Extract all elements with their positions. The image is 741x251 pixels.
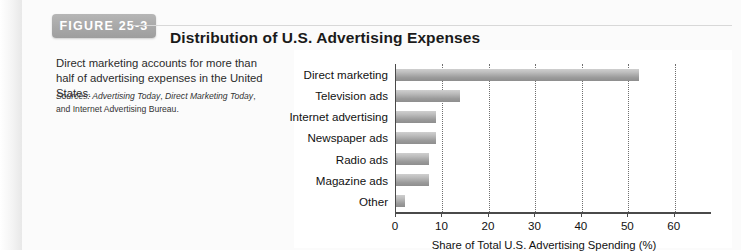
bar-row: Television ads: [396, 85, 712, 106]
bar: [396, 90, 460, 102]
x-tick-0: [395, 212, 396, 217]
x-tick-60: [674, 212, 675, 217]
bar: [396, 153, 429, 165]
bar: [396, 69, 639, 81]
category-label: Internet advertising: [223, 110, 396, 123]
bar: [396, 132, 436, 144]
x-tick-label: 60: [654, 219, 694, 232]
plot-area: Direct marketingTelevision adsInternet a…: [395, 64, 712, 212]
x-tick-label: 10: [421, 219, 461, 232]
x-tick-10: [441, 212, 442, 217]
bar: [396, 111, 436, 123]
bar: [396, 174, 429, 186]
x-tick-label: 20: [468, 219, 508, 232]
x-tick-label: 40: [561, 219, 601, 232]
x-tick-50: [627, 212, 628, 217]
chart-plot-panel: Direct marketingTelevision adsInternet a…: [294, 50, 732, 248]
x-tick-label: 0: [375, 219, 415, 232]
page-left-edge: [0, 0, 22, 250]
bar-row: Magazine ads: [396, 170, 712, 191]
bar-row: Radio ads: [396, 149, 712, 170]
bar-row: Direct marketing: [396, 64, 712, 85]
x-tick-40: [581, 212, 582, 217]
category-label: Other: [223, 195, 396, 208]
source-title-3: Internet Advertising Bureau.: [73, 104, 179, 114]
chart-title: Distribution of U.S. Advertising Expense…: [170, 29, 590, 47]
bar-row: Internet advertising: [396, 106, 712, 127]
figure-card: FIGURE 25-3 Distribution of U.S. Adverti…: [22, 0, 741, 250]
source-title-1: Advertising Today: [92, 91, 160, 101]
category-label: Television ads: [223, 89, 396, 102]
x-tick-20: [488, 212, 489, 217]
x-tick-label: 50: [607, 219, 647, 232]
title-divider: [132, 25, 732, 26]
bar-row: Other: [396, 191, 712, 212]
figure-number-label: FIGURE 25-3: [52, 14, 156, 38]
category-label: Magazine ads: [223, 174, 396, 187]
bar: [396, 195, 405, 207]
x-tick-30: [534, 212, 535, 217]
sources-label: Sources:: [56, 91, 90, 101]
bar-row: Newspaper ads: [396, 127, 712, 148]
figure-number-tab: FIGURE 25-3: [52, 14, 156, 38]
category-label: Newspaper ads: [223, 131, 396, 144]
x-tick-label: 30: [514, 219, 554, 232]
category-label: Direct marketing: [223, 68, 396, 81]
category-label: Radio ads: [223, 153, 396, 166]
x-axis-title: Share of Total U.S. Advertising Spending…: [354, 239, 734, 251]
